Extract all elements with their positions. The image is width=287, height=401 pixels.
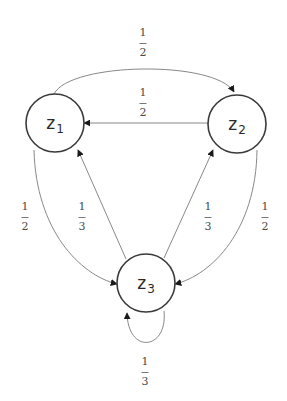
prob-label-z3-z2: 13 xyxy=(205,201,212,233)
node-z3-sub: 3 xyxy=(147,282,155,296)
fraction-bar xyxy=(22,217,29,218)
prob-denominator: 2 xyxy=(140,47,147,59)
edge-z2-to-z3 xyxy=(175,150,257,284)
prob-label-z1-z3: 12 xyxy=(22,201,29,233)
prob-denominator: 3 xyxy=(79,221,86,233)
prob-denominator: 2 xyxy=(22,221,29,233)
node-z1-sub: 1 xyxy=(56,122,64,136)
prob-denominator: 3 xyxy=(205,221,212,233)
node-z2-label: z2 xyxy=(228,114,246,137)
node-z1-label: z1 xyxy=(46,113,64,136)
prob-label-z3-self: 13 xyxy=(142,356,149,388)
node-z2-sub: 2 xyxy=(238,123,246,137)
prob-label-z2-z3: 12 xyxy=(262,201,269,233)
node-z2-base: z xyxy=(228,114,237,134)
prob-numerator: 1 xyxy=(140,87,147,99)
prob-numerator: 1 xyxy=(142,356,149,368)
node-z3-base: z xyxy=(137,273,146,293)
prob-label-z1-z2: 12 xyxy=(140,27,147,59)
fraction-bar xyxy=(140,103,147,104)
prob-numerator: 1 xyxy=(205,201,212,213)
fraction-bar xyxy=(205,217,212,218)
prob-numerator: 1 xyxy=(22,201,29,213)
prob-numerator: 1 xyxy=(262,201,269,213)
fraction-bar xyxy=(142,372,149,373)
prob-numerator: 1 xyxy=(79,201,86,213)
edge-z3-self-loop xyxy=(127,311,164,342)
fraction-bar xyxy=(262,217,269,218)
edge-z1-to-z3 xyxy=(34,150,117,284)
node-z1-base: z xyxy=(46,113,55,133)
prob-denominator: 2 xyxy=(140,107,147,119)
fraction-bar xyxy=(79,217,86,218)
prob-denominator: 3 xyxy=(142,376,149,388)
markov-chain-diagram xyxy=(0,0,287,401)
prob-numerator: 1 xyxy=(140,27,147,39)
node-z3-label: z3 xyxy=(137,273,155,296)
prob-label-z2-z1: 12 xyxy=(140,87,147,119)
fraction-bar xyxy=(140,43,147,44)
prob-label-z3-z1: 13 xyxy=(79,201,86,233)
prob-denominator: 2 xyxy=(262,221,269,233)
